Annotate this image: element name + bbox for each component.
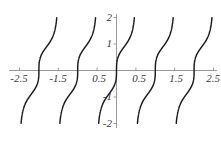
y-axis-label-pos-1: 1 bbox=[107, 37, 113, 49]
function-plot-figure: -2.5 -1.5 0.5 0.5 1.5 2.5 2 1 -1 -2 bbox=[0, 0, 221, 142]
x-axis-label-neg-0-5: 0.5 bbox=[92, 72, 106, 84]
x-axis-label-pos-1-5: 1.5 bbox=[169, 72, 183, 84]
x-axis-label-neg-1-5: -1.5 bbox=[49, 72, 67, 84]
x-axis-label-neg-2-5: -2.5 bbox=[10, 72, 28, 84]
x-axis-label-pos-2-5: 2.5 bbox=[206, 72, 220, 84]
x-axis-label-pos-0-5: 0.5 bbox=[132, 72, 146, 84]
y-axis-label-neg-2: -2 bbox=[103, 117, 113, 129]
axes-group bbox=[9, 14, 217, 128]
y-axis-label-pos-2: 2 bbox=[107, 11, 113, 23]
plot-canvas: -2.5 -1.5 0.5 0.5 1.5 2.5 2 1 -1 -2 bbox=[0, 0, 221, 142]
